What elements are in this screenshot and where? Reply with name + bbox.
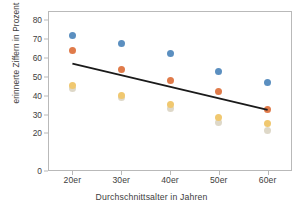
x-tick-label: 50er (196, 175, 242, 185)
y-tick-label: 60 (2, 53, 42, 63)
y-tick-label: 30 (2, 110, 42, 120)
trend-line-segment (72, 64, 267, 110)
y-tick-label: 20 (2, 128, 42, 138)
x-tick-label: 30er (98, 175, 144, 185)
x-tick-mark (268, 171, 269, 175)
x-tick-mark (219, 171, 220, 175)
y-tick-label: 70 (2, 34, 42, 44)
y-axis-title: erinnerte Ziffern in Prozent (11, 0, 21, 123)
x-axis-title: Durchschnittsalter in Jahren (0, 192, 303, 202)
x-tick-mark (170, 171, 171, 175)
y-tick-label: 50 (2, 72, 42, 82)
x-tick-label: 60er (245, 175, 291, 185)
x-tick-label: 40er (147, 175, 193, 185)
x-tick-mark (72, 171, 73, 175)
scatter-chart: 020304050607080 20er30er40er50er60er eri… (0, 0, 303, 217)
x-tick-mark (121, 171, 122, 175)
trend-line (48, 11, 292, 171)
y-tick-label: 0 (2, 166, 42, 176)
y-tick-label: 80 (2, 15, 42, 25)
y-tick-label: 40 (2, 91, 42, 101)
x-tick-label: 20er (49, 175, 95, 185)
